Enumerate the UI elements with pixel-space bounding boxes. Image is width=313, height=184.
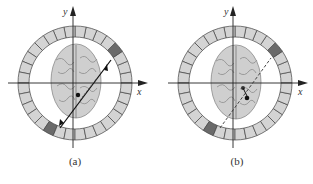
detector-segment	[280, 83, 292, 94]
annihilation-point-2	[245, 96, 250, 101]
x-axis-label: x	[298, 86, 302, 97]
detector-segment	[235, 26, 246, 38]
caption-b: (b)	[159, 155, 313, 167]
detector-segment	[120, 83, 132, 94]
detector-segment	[75, 26, 86, 38]
detector-segment	[18, 72, 30, 83]
panel-a: y x (a)	[0, 0, 156, 184]
detector-segment	[178, 72, 190, 83]
y-axis-label: y	[224, 6, 228, 17]
x-axis-label: x	[137, 86, 141, 97]
caption-a: (a)	[0, 155, 153, 167]
annihilation-point	[76, 93, 80, 97]
y-axis-label: y	[63, 6, 67, 17]
panel-b: y x (b)	[158, 0, 313, 184]
